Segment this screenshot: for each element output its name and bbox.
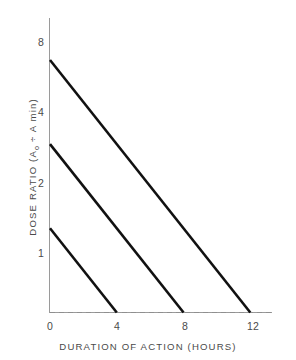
series-line-ratio-4: [50, 144, 184, 312]
y-axis-title-subscript: o: [32, 146, 41, 150]
plot-area: [0, 0, 296, 360]
x-tick-label-0: 0: [38, 320, 62, 332]
x-tick-label-8: 8: [173, 320, 197, 332]
chart-figure: 8 4 2 1 0 4 8 12 DURATION OF ACTION (HOU…: [0, 0, 296, 360]
x-tick-label-4: 4: [105, 320, 129, 332]
series-line-ratio-8: [50, 60, 250, 313]
y-axis-title: DOSE RATIO (Ao ÷ A min): [27, 47, 41, 287]
series-line-ratio-2: [50, 228, 117, 312]
x-tick-label-12: 12: [241, 320, 265, 332]
x-axis-title: DURATION OF ACTION (HOURS): [0, 341, 296, 352]
y-axis-title-lead: DOSE RATIO (A: [27, 150, 38, 236]
y-axis-title-mid: ÷ A min): [27, 98, 38, 146]
